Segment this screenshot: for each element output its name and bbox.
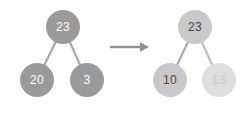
node-after-right-label: 13 — [212, 74, 226, 86]
tree-after: 23 10 13 — [0, 0, 252, 116]
node-after-root-label: 23 — [188, 21, 202, 33]
node-after-right: 13 — [202, 63, 236, 97]
diagram-canvas: 23 20 3 23 10 13 — [0, 0, 252, 116]
node-after-left: 10 — [153, 63, 187, 97]
node-after-left-label: 10 — [163, 74, 177, 86]
tree-after-edges — [0, 0, 252, 116]
node-after-root: 23 — [178, 10, 212, 44]
